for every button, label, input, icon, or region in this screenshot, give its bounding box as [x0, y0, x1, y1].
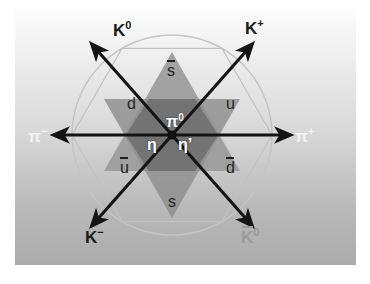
meson-label-pi-plus: π+: [295, 126, 314, 145]
quark-label-u: u: [226, 96, 235, 112]
meson-label-k-zero-bar: K0: [241, 227, 259, 246]
quark-label-u-bar: u: [120, 160, 129, 176]
center-label-eta-prime: η’: [178, 137, 192, 153]
diagram-stage: K0 K+ π− π+ K− K0 s d u u: [15, 8, 356, 265]
quark-label-s: s: [168, 194, 176, 210]
meson-label-k-plus: K+: [245, 18, 264, 37]
origin-dot: [167, 130, 176, 139]
meson-label-k-minus: K−: [85, 227, 104, 246]
quark-label-d: d: [127, 96, 136, 112]
quark-label-s-bar: s: [167, 63, 175, 79]
center-label-eta: η: [147, 137, 157, 153]
figure-panel: K0 K+ π− π+ K− K0 s d u u: [15, 8, 356, 265]
meson-label-pi-minus: π−: [28, 126, 47, 145]
center-label-pi-zero: π0: [166, 113, 184, 130]
quark-label-d-bar: d: [226, 160, 235, 176]
meson-label-k-zero: K0: [113, 20, 131, 39]
